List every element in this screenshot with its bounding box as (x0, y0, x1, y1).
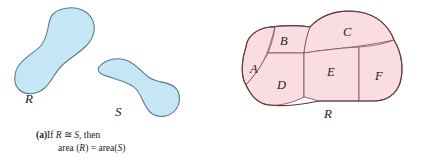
label-region-r-outer: R (324, 107, 332, 120)
caption-a2-text-mid: ) = area( (85, 143, 117, 153)
caption-a-congruent-symbol: ≅ (62, 130, 75, 140)
label-subregion-b: B (280, 35, 288, 48)
caption-a2-text-pre: area ( (58, 143, 79, 153)
label-subregion-e: E (327, 66, 335, 79)
panel-a-drawing (0, 0, 214, 128)
blob-s-shape (98, 59, 179, 117)
label-region-s: S (115, 105, 122, 118)
panel-b-subdivided-region: A B C D E F R (b)area(R) = area(A) + are… (214, 0, 429, 167)
figure-area-congruence-additivity: R S (a)If R ≅ S, then area (R) = area(S) (0, 0, 429, 167)
label-subregion-a: A (250, 63, 258, 76)
label-subregion-f: F (375, 70, 383, 83)
label-subregion-c: C (343, 26, 351, 39)
caption-a-text-post: , then (79, 130, 100, 140)
caption-a-tag: (a) (36, 130, 47, 140)
caption-a-text-pre: If (47, 130, 56, 140)
panel-b-drawing (214, 0, 429, 128)
region-b-shape (268, 26, 310, 53)
panel-a-congruent-regions: R S (a)If R ≅ S, then area (R) = area(S) (0, 0, 214, 167)
label-subregion-d: D (277, 79, 286, 92)
caption-a2-text-post: ) (122, 143, 125, 153)
label-region-r: R (25, 92, 33, 105)
blob-r-shape (15, 8, 95, 94)
caption-a: (a)If R ≅ S, then area (R) = area(S) (36, 129, 125, 155)
